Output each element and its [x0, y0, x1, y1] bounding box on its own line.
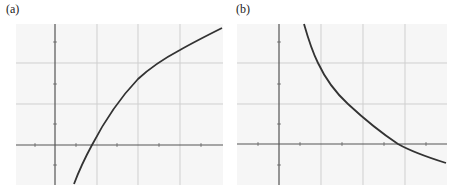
charts: [0, 0, 459, 190]
chart-b: [237, 24, 447, 185]
chart-a: [16, 24, 223, 185]
